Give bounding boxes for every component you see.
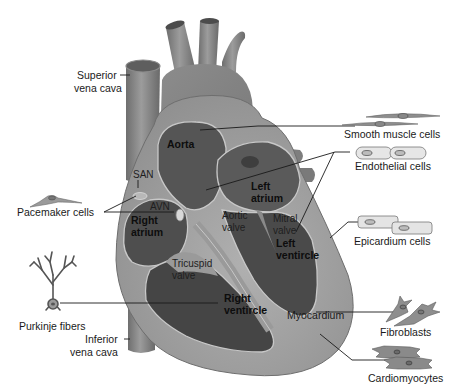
label-inferior-vena-cava-1: Inferior xyxy=(85,333,118,345)
cell-cardiomyocytes: Cardiomyocytes xyxy=(368,346,443,384)
label-right-atrium-1: Right xyxy=(131,214,158,226)
label-right-atrium-2: atrium xyxy=(131,226,163,238)
cardiomyocyte-icon xyxy=(372,346,432,369)
label-aortic-valve-1: Aortic xyxy=(222,210,248,221)
fibroblast-icon xyxy=(386,296,440,326)
svc-opening xyxy=(126,60,160,72)
cell-epicardium: Epicardium cells xyxy=(354,216,432,247)
cell-pacemaker: Pacemaker cells xyxy=(17,195,94,218)
cell-fibroblasts: Fibroblasts xyxy=(380,296,440,338)
label-left-atrium-2: atrium xyxy=(251,192,283,204)
cell-smooth-muscle: Smooth muscle cells xyxy=(342,114,440,141)
label-mitral-valve-2: valve xyxy=(273,225,297,236)
label-cardiomyocytes: Cardiomyocytes xyxy=(368,372,443,384)
cell-endothelial: Endothelial cells xyxy=(355,147,431,172)
label-aorta: Aorta xyxy=(167,138,195,150)
label-aortic-valve-2: valve xyxy=(222,222,246,233)
label-purkinje-fibers: Purkinje fibers xyxy=(19,320,86,332)
label-san: SAN xyxy=(133,169,154,180)
label-avn: AVN xyxy=(150,201,170,212)
purkinje-fiber-icon xyxy=(30,252,76,310)
label-fibroblasts: Fibroblasts xyxy=(380,326,431,338)
label-epicardium-cells: Epicardium cells xyxy=(354,235,430,247)
label-right-ventricle-2: ventircle xyxy=(224,304,267,316)
label-right-ventricle-1: Right xyxy=(224,292,251,304)
label-smooth-muscle-cells: Smooth muscle cells xyxy=(344,128,440,140)
label-superior-vena-cava-2: vena cava xyxy=(74,82,122,94)
label-pacemaker-cells: Pacemaker cells xyxy=(17,206,94,218)
cell-purkinje: Purkinje fibers xyxy=(19,252,86,332)
label-inferior-vena-cava-2: vena cava xyxy=(70,346,118,358)
label-myocardium: Myocardium xyxy=(287,309,344,321)
label-mitral-valve-1: Mitral xyxy=(273,213,297,224)
avn-node xyxy=(176,209,184,221)
label-left-ventricle-1: Left xyxy=(276,237,296,249)
epicardium-cell-icon xyxy=(358,216,432,234)
label-superior-vena-cava-1: Superior xyxy=(77,69,117,81)
smooth-muscle-cell-icon xyxy=(342,114,440,127)
label-left-atrium-1: Left xyxy=(251,180,271,192)
heart-diagram: Superior vena cava Aorta SAN AVN Right a… xyxy=(0,0,456,389)
label-left-ventricle-2: ventircle xyxy=(276,249,319,261)
label-endothelial-cells: Endothelial cells xyxy=(355,160,431,172)
endothelial-cell-icon xyxy=(356,147,426,159)
label-tricuspid-valve-1: Tricuspid xyxy=(172,258,212,269)
label-tricuspid-valve-2: valve xyxy=(172,270,196,281)
